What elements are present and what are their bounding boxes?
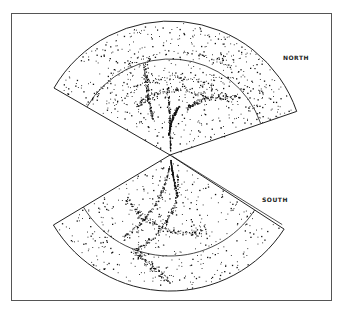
north-galaxy-point	[150, 111, 151, 112]
north-galaxy-point	[220, 63, 221, 64]
south-galaxy-point	[164, 275, 165, 276]
south-galaxy-point	[150, 220, 151, 221]
south-galaxy-point	[196, 278, 197, 279]
north-galaxy-point	[220, 62, 221, 63]
north-galaxy-point	[182, 80, 183, 81]
north-galaxy-point	[216, 77, 217, 78]
south-galaxy-point	[139, 211, 140, 212]
north-galaxy-point	[148, 96, 149, 97]
south-galaxy-point	[209, 236, 210, 237]
north-galaxy-point	[143, 56, 144, 57]
south-galaxy-point	[160, 198, 161, 199]
south-galaxy-point	[118, 200, 119, 201]
north-galaxy-point	[260, 73, 261, 74]
south-galaxy-point	[157, 267, 158, 268]
south-galaxy-point	[187, 288, 188, 289]
north-galaxy-point	[157, 96, 158, 97]
south-galaxy-point	[138, 176, 139, 177]
north-galaxy-point	[170, 111, 171, 112]
north-galaxy-point	[215, 36, 216, 37]
north-galaxy-point	[238, 83, 239, 84]
north-galaxy-point	[149, 90, 150, 91]
south-galaxy-point	[98, 247, 99, 248]
south-galaxy-point	[193, 282, 194, 283]
north-galaxy-point	[193, 37, 194, 38]
north-galaxy-point	[227, 65, 228, 66]
north-galaxy-point	[186, 87, 187, 88]
south-galaxy-point	[152, 264, 153, 265]
south-galaxy-point	[137, 178, 138, 179]
north-galaxy-point	[127, 61, 128, 62]
north-galaxy-point	[124, 118, 125, 119]
south-galaxy-points	[59, 160, 279, 289]
north-galaxy-point	[227, 96, 228, 97]
north-galaxy-point	[109, 60, 110, 61]
south-galaxy-point	[127, 199, 128, 200]
south-galaxy-point	[167, 231, 168, 232]
south-galaxy-point	[256, 230, 257, 231]
south-galaxy-point	[173, 207, 174, 208]
south-galaxy-point	[174, 203, 175, 204]
south-galaxy-point	[178, 176, 179, 177]
north-galaxy-point	[159, 83, 160, 84]
south-galaxy-point	[226, 250, 227, 251]
north-galaxy-point	[193, 106, 194, 107]
south-galaxy-point	[138, 257, 139, 258]
south-galaxy-point	[146, 262, 147, 263]
north-galaxy-point	[184, 130, 185, 131]
north-galaxy-point	[188, 105, 189, 106]
south-galaxy-point	[174, 232, 175, 233]
north-galaxy-point	[146, 100, 147, 101]
north-galaxy-point	[228, 64, 229, 65]
north-galaxy-point	[142, 123, 143, 124]
north-galaxy-point	[205, 101, 206, 102]
north-galaxy-point	[169, 32, 170, 33]
north-galaxy-point	[133, 75, 134, 76]
south-galaxy-point	[185, 190, 186, 191]
north-galaxy-point	[176, 87, 177, 88]
south-galaxy-point	[105, 206, 106, 207]
north-galaxy-point	[141, 100, 142, 101]
south-galaxy-point	[103, 217, 104, 218]
north-galaxy-point	[241, 47, 242, 48]
south-galaxy-point	[199, 215, 200, 216]
north-galaxy-point	[205, 93, 206, 94]
south-galaxy-point	[203, 251, 204, 252]
south-galaxy-point	[237, 261, 238, 262]
south-galaxy-point	[173, 210, 174, 211]
south-galaxy-point	[195, 248, 196, 249]
north-galaxy-point	[106, 101, 107, 102]
south-galaxy-point	[194, 276, 195, 277]
south-galaxy-point	[163, 191, 164, 192]
north-galaxy-point	[118, 71, 119, 72]
north-galaxy-point	[178, 39, 179, 40]
south-galaxy-point	[192, 175, 193, 176]
south-galaxy-point	[202, 230, 203, 231]
north-galaxy-point	[198, 130, 199, 131]
south-galaxy-point	[133, 258, 134, 259]
north-galaxy-point	[198, 100, 199, 101]
south-galaxy-point	[167, 176, 168, 177]
north-galaxy-point	[76, 83, 77, 84]
north-galaxy-point	[110, 99, 111, 100]
south-galaxy-point	[78, 241, 79, 242]
north-galaxy-point	[190, 105, 191, 106]
south-galaxy-point	[154, 271, 155, 272]
south-galaxy-point	[137, 226, 138, 227]
south-galaxy-point	[127, 203, 128, 204]
north-galaxy-point	[221, 98, 222, 99]
north-galaxy-point	[84, 61, 85, 62]
north-galaxy-point	[170, 133, 171, 134]
south-galaxy-point	[141, 224, 142, 225]
south-galaxy-point	[273, 224, 274, 225]
south-galaxy-point	[112, 252, 113, 253]
south-galaxy-point	[160, 195, 161, 196]
north-galaxy-point	[253, 88, 254, 89]
north-galaxy-point	[208, 83, 209, 84]
north-galaxy-point	[124, 98, 125, 99]
south-galaxy-point	[166, 179, 167, 180]
south-galaxy-point	[95, 240, 96, 241]
north-galaxy-point	[211, 137, 212, 138]
south-galaxy-point	[180, 251, 181, 252]
north-galaxy-point	[212, 95, 213, 96]
